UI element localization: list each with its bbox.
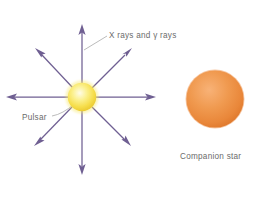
ray-up-right xyxy=(92,48,132,88)
diagram-canvas xyxy=(0,0,260,198)
pulsar-diagram: X rays and γ rays Pulsar Companion star xyxy=(0,0,260,198)
ray-up xyxy=(78,24,85,84)
label-pulsar: Pulsar xyxy=(22,114,47,122)
label-companion-star: Companion star xyxy=(180,153,241,161)
ray-right xyxy=(95,93,156,100)
label-xrays-and-gamma-rays: X rays and γ rays xyxy=(109,32,177,40)
ray-left xyxy=(6,93,69,100)
pulsar-sphere xyxy=(66,81,99,114)
ray-down xyxy=(78,110,85,175)
ray-up-left xyxy=(35,48,73,88)
leader-line-xrays xyxy=(84,36,107,50)
ray-down-right xyxy=(92,107,131,146)
companion-star-sphere xyxy=(186,70,245,129)
